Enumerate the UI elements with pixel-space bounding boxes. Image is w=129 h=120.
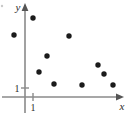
data-point	[95, 62, 100, 67]
data-point	[36, 69, 41, 74]
data-point	[101, 71, 106, 76]
data-point	[30, 15, 35, 20]
x-axis-label: x	[119, 100, 125, 112]
data-points-layer	[11, 15, 115, 87]
data-point	[79, 82, 84, 87]
scatter-plot-figure: y x 1 1	[0, 0, 129, 120]
y-axis-tick-label-1: 1	[15, 83, 20, 94]
x-axis-tick-label-1: 1	[31, 102, 36, 113]
y-axis-arrowhead	[22, 3, 29, 11]
y-axis-label: y	[15, 1, 21, 13]
data-point	[110, 82, 115, 87]
plot-canvas: y x 1 1	[0, 0, 129, 120]
data-point	[11, 32, 16, 37]
scan-speck	[1, 5, 3, 7]
data-point	[66, 33, 71, 38]
data-point	[44, 53, 49, 58]
data-point	[51, 81, 56, 86]
